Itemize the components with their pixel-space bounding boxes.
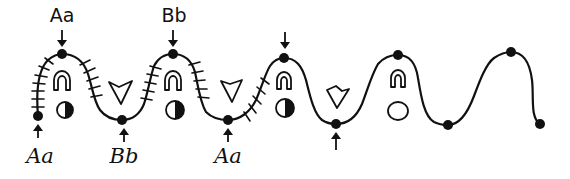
label-top-bb: Bb [161, 6, 186, 25]
label-bottom-aa-2: Aa [214, 146, 242, 167]
horseshoe-symbols [54, 70, 405, 90]
node-peak-5 [506, 47, 516, 57]
arrow-down-icon [280, 32, 290, 49]
node-trough-3 [331, 119, 341, 129]
node-peak-4 [393, 50, 403, 60]
node-end-left [33, 111, 43, 121]
half-moon-icon [166, 101, 184, 119]
node-trough-4 [443, 120, 453, 130]
arrow-up-icon [331, 132, 341, 150]
genetic-strand-diagram [0, 0, 570, 179]
half-moon-icon [276, 99, 294, 117]
empty-circle-icon [388, 102, 408, 120]
arrow-down-icon [57, 30, 67, 47]
arrow-up-icon [33, 124, 43, 138]
node-peak-2 [168, 49, 178, 59]
horseshoe-icon [277, 72, 291, 89]
node-peak-3 [279, 53, 289, 63]
node-trough-2 [223, 115, 233, 125]
arrow-up-icon [119, 128, 129, 142]
label-top-aa: Aa [50, 6, 75, 25]
arrow-down-icon [168, 30, 178, 47]
arrow-up-icon [223, 128, 233, 142]
node-peak-1 [57, 49, 67, 59]
horseshoe-icon [54, 71, 70, 90]
label-bottom-bb: Bb [110, 146, 139, 167]
v-shape-icon [109, 81, 132, 104]
horseshoe-icon [165, 71, 181, 90]
v-shape-icon [221, 80, 242, 102]
arrows [33, 30, 341, 150]
horseshoe-icon [391, 70, 405, 87]
node-end-right [535, 119, 545, 129]
label-bottom-aa-1: Aa [26, 146, 54, 167]
v-shape-icon [327, 86, 349, 108]
half-moon-icon [57, 102, 73, 118]
node-trough-1 [117, 115, 127, 125]
